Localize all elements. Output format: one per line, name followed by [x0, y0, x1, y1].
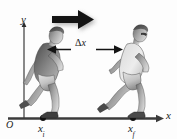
final-position-label: xf	[128, 123, 135, 137]
origin-label: O	[6, 120, 13, 130]
initial-position-label: xi	[38, 123, 45, 137]
displacement-label: Δx	[75, 38, 86, 48]
displacement-arrowhead-right	[114, 45, 123, 54]
runner-initial-shoe	[41, 112, 59, 118]
runner-final-shoe	[128, 112, 146, 118]
delta-variable: x	[81, 37, 85, 48]
x-axis-arrowhead	[156, 115, 164, 122]
x-axis-label: x	[166, 110, 171, 121]
figure-graphics	[0, 0, 177, 139]
runner-final-position	[97, 25, 149, 118]
y-axis-label: y	[21, 14, 26, 25]
runner-initial-position	[19, 27, 64, 118]
displacement-figure: y x O xi xf Δx	[0, 0, 177, 139]
